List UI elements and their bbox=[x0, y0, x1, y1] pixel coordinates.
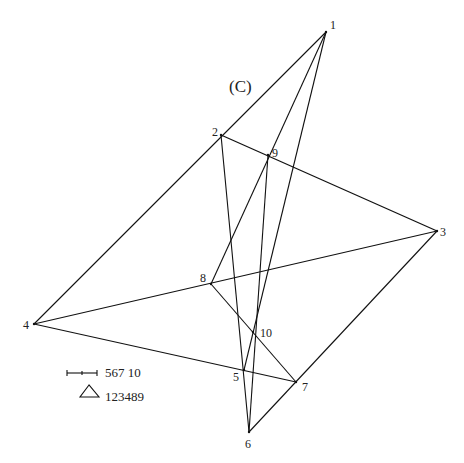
vertex-label-9: 9 bbox=[272, 146, 278, 160]
vertex-5-point bbox=[243, 369, 245, 371]
vertex-3-point bbox=[436, 230, 438, 232]
vertex-label-8: 8 bbox=[200, 271, 206, 285]
diagram-title: (C) bbox=[229, 77, 252, 96]
edge-2-6 bbox=[221, 135, 249, 432]
vertex-6-point bbox=[248, 431, 250, 433]
vertex-8-point bbox=[210, 283, 212, 285]
vertex-label-5: 5 bbox=[233, 370, 239, 384]
edge-3-6 bbox=[249, 231, 437, 432]
legend-label-segment: 567 10 bbox=[105, 365, 141, 380]
vertex-10-point bbox=[252, 331, 254, 333]
vertex-label-2: 2 bbox=[212, 125, 218, 139]
legend-label-triangle: 123489 bbox=[105, 389, 144, 404]
vertex-label-4: 4 bbox=[23, 318, 29, 332]
vertex-label-1: 1 bbox=[330, 18, 336, 32]
vertex-9-point bbox=[267, 154, 269, 156]
vertex-label-7: 7 bbox=[302, 380, 308, 394]
vertex-2-point bbox=[220, 134, 222, 136]
edge-1-4 bbox=[34, 32, 326, 324]
vertex-label-3: 3 bbox=[440, 225, 446, 239]
legend-segment-icon bbox=[67, 370, 97, 376]
edge-4-3 bbox=[34, 231, 437, 324]
legend-triangle-icon bbox=[80, 385, 99, 397]
edge-2-3 bbox=[221, 135, 437, 231]
vertex-label-6: 6 bbox=[245, 437, 251, 451]
vertex-7-point bbox=[295, 381, 297, 383]
legend: 567 10 123489 bbox=[67, 365, 144, 404]
vertex-label-10: 10 bbox=[260, 326, 272, 340]
diagram-canvas: 12345678910 (C) 567 10 123489 bbox=[0, 0, 464, 463]
vertex-4-point bbox=[33, 323, 35, 325]
vertex-1-point bbox=[325, 31, 327, 33]
edge-1-8 bbox=[211, 32, 326, 284]
edge-9-6 bbox=[249, 155, 268, 432]
